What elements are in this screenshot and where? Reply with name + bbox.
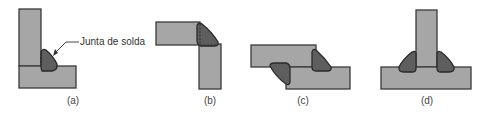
vertical-plate xyxy=(416,10,437,67)
callout-label: Junta de solda xyxy=(80,36,145,47)
horizontal-plate xyxy=(156,22,200,45)
horizontal-plate xyxy=(381,67,471,89)
fillet-weld-right xyxy=(437,51,454,72)
weld-joints-diagram: Junta de solda (a) (b) (c) (d) xyxy=(0,0,491,115)
panel-b: (b) xyxy=(156,22,221,106)
vertical-plate xyxy=(19,9,41,66)
caption-c: (c) xyxy=(297,95,309,106)
fillet-weld-right xyxy=(312,49,331,71)
caption-d: (d) xyxy=(421,95,433,106)
panel-c: (c) xyxy=(251,45,350,106)
caption-a: (a) xyxy=(67,95,79,106)
callout-leader xyxy=(56,42,79,52)
fillet-weld-left xyxy=(399,51,416,72)
panel-d: (d) xyxy=(381,10,471,106)
vertical-plate xyxy=(199,44,221,89)
arrowhead-icon xyxy=(53,49,58,56)
panel-a: Junta de solda (a) xyxy=(19,9,145,106)
fillet-weld-left xyxy=(270,63,290,85)
caption-b: (b) xyxy=(204,95,216,106)
